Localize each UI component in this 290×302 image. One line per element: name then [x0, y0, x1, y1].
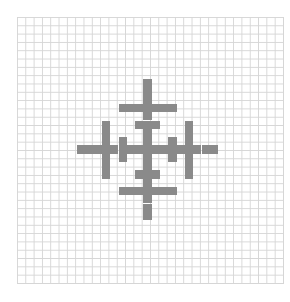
filled-cell: [160, 187, 168, 195]
filled-cell: [85, 145, 93, 153]
filled-cell: [168, 187, 176, 195]
filled-cell: [77, 145, 85, 153]
filled-cell: [143, 187, 151, 195]
filled-cell: [102, 145, 110, 153]
filled-cell: [152, 145, 160, 153]
filled-cell: [119, 104, 127, 112]
filled-cell: [102, 170, 110, 178]
filled-cell: [185, 145, 193, 153]
filled-cell: [185, 162, 193, 170]
filled-cell: [102, 137, 110, 145]
filled-cell: [127, 145, 135, 153]
filled-cell: [143, 104, 151, 112]
filled-cell: [127, 187, 135, 195]
filled-cell: [119, 145, 127, 153]
filled-cell: [143, 112, 151, 120]
filled-cell: [143, 154, 151, 162]
filled-cell: [143, 179, 151, 187]
filled-cell: [143, 129, 151, 137]
filled-cell: [127, 104, 135, 112]
filled-cell: [143, 121, 151, 129]
filled-cell: [143, 96, 151, 104]
filled-cell: [135, 104, 143, 112]
filled-cell: [135, 170, 143, 178]
filled-cell: [143, 170, 151, 178]
filled-cell: [152, 187, 160, 195]
filled-cell: [143, 137, 151, 145]
filled-cell: [152, 170, 160, 178]
filled-cell: [119, 154, 127, 162]
filled-cell: [168, 137, 176, 145]
filled-cell: [143, 79, 151, 87]
filled-cell: [102, 121, 110, 129]
filled-cell: [143, 204, 151, 212]
filled-cell: [119, 187, 127, 195]
filled-cell: [168, 104, 176, 112]
filled-cell: [185, 154, 193, 162]
cross-pattern: [77, 79, 218, 220]
filled-cell: [152, 104, 160, 112]
filled-cell: [185, 129, 193, 137]
filled-cell: [135, 187, 143, 195]
filled-cell: [102, 162, 110, 170]
filled-cell: [185, 121, 193, 129]
filled-cell: [135, 145, 143, 153]
filled-cell: [143, 195, 151, 203]
filled-cell: [102, 129, 110, 137]
filled-cell: [202, 145, 210, 153]
filled-cell: [210, 145, 218, 153]
filled-cell: [185, 137, 193, 145]
filled-cell: [94, 145, 102, 153]
filled-cell: [160, 104, 168, 112]
filled-cell: [135, 121, 143, 129]
filled-cell: [168, 145, 176, 153]
filled-cell: [143, 162, 151, 170]
filled-cell: [152, 121, 160, 129]
filled-cell: [160, 145, 168, 153]
filled-cell: [193, 145, 201, 153]
filled-cell: [143, 212, 151, 220]
filled-cell: [143, 87, 151, 95]
filled-cell: [185, 170, 193, 178]
filled-cell: [177, 145, 185, 153]
filled-cell: [119, 137, 127, 145]
filled-cell: [168, 154, 176, 162]
filled-cell: [143, 145, 151, 153]
filled-cell: [110, 145, 118, 153]
filled-cell: [102, 154, 110, 162]
